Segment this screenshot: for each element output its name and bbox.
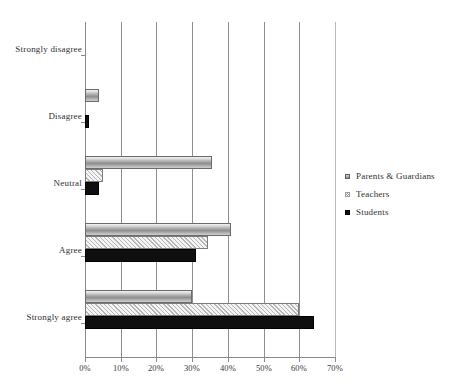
y-label-agree: Agree [59, 245, 82, 255]
x-tick-label-50: 50% [256, 363, 272, 373]
legend-item-teachers: Teachers [345, 190, 435, 199]
teachers-swatch-icon [345, 192, 350, 197]
legend-item-students: Students [345, 208, 435, 217]
y-label-strongly-agree: Strongly agree [26, 312, 82, 322]
x-tick-10 [121, 357, 122, 362]
x-tick-20 [156, 357, 157, 362]
legend-label-teachers: Teachers [356, 190, 389, 199]
bar-students-strongly-agree [85, 316, 314, 329]
bar-parents-strongly-agree [85, 290, 192, 303]
y-tick-strongly-disagree [81, 55, 85, 56]
bar-parents-neutral [85, 156, 212, 169]
bar-parents-agree [85, 223, 231, 236]
bar-chart: 0% 10% 20% 30% 40% 50% 60% 70% Strongly … [0, 0, 459, 392]
bar-students-agree [85, 249, 196, 262]
students-swatch-icon [345, 210, 350, 215]
x-tick-70 [335, 357, 336, 362]
bar-teachers-neutral [85, 169, 103, 182]
y-tick-agree [81, 256, 85, 257]
cropped-caption-remnant [10, 385, 190, 392]
legend-label-parents-guardians: Parents & Guardians [356, 172, 435, 181]
gridline-70 [335, 22, 336, 357]
y-label-disagree: Disagree [48, 111, 82, 121]
legend-label-students: Students [356, 208, 389, 217]
parents-swatch-icon [345, 174, 350, 179]
y-label-neutral: Neutral [54, 178, 82, 188]
y-tick-neutral [81, 189, 85, 190]
bar-teachers-agree [85, 236, 208, 249]
gridline-60 [299, 22, 300, 357]
legend-item-parents-guardians: Parents & Guardians [345, 172, 435, 181]
x-tick-label-0: 0% [79, 363, 91, 373]
y-label-strongly-disagree: Strongly disagree [15, 44, 82, 54]
x-tick-40 [228, 357, 229, 362]
x-tick-label-60: 60% [291, 363, 307, 373]
x-tick-label-30: 30% [184, 363, 200, 373]
x-tick-50 [264, 357, 265, 362]
bar-students-neutral [85, 182, 99, 195]
bar-teachers-strongly-agree [85, 303, 299, 316]
y-tick-strongly-agree [81, 323, 85, 324]
bar-parents-disagree [85, 89, 99, 102]
x-tick-60 [299, 357, 300, 362]
chart-legend: Parents & Guardians Teachers Students [345, 172, 435, 226]
bar-students-disagree [85, 115, 89, 128]
x-tick-label-20: 20% [148, 363, 164, 373]
x-tick-label-70: 70% [327, 363, 343, 373]
x-tick-30 [192, 357, 193, 362]
x-tick-0 [85, 357, 86, 362]
x-tick-label-10: 10% [113, 363, 129, 373]
plot-area [85, 22, 335, 357]
y-tick-disagree [81, 122, 85, 123]
x-tick-label-40: 40% [220, 363, 236, 373]
